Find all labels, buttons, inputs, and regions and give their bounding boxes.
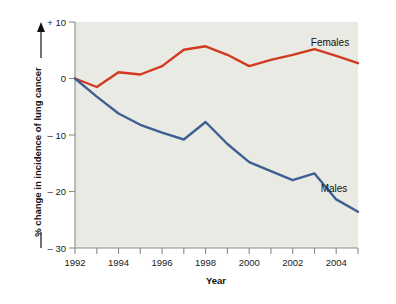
x-tick-label-2000: 2000 xyxy=(239,257,260,268)
x-tick-label-2004: 2004 xyxy=(326,257,347,268)
y-axis-title: % change in incidence of lung cancer xyxy=(32,67,43,237)
y-tick-label-minus10: – 10 xyxy=(48,130,67,141)
series-label-males: Males xyxy=(321,183,348,194)
y-tick-label-0: 0 xyxy=(61,73,66,84)
x-tick-label-1994: 1994 xyxy=(108,257,129,268)
plot-area-background xyxy=(75,22,358,248)
x-tick-label-1998: 1998 xyxy=(195,257,216,268)
y-tick-label-minus20: – 20 xyxy=(48,186,67,197)
x-tick-label-1996: 1996 xyxy=(152,257,173,268)
y-tick-marks xyxy=(69,22,75,248)
lung-cancer-incidence-figure: + 10 0 – 10 – 20 – 30 1992 1994 1996 199… xyxy=(0,0,396,304)
y-tick-label-plus10: + 10 xyxy=(47,17,66,28)
x-tick-label-2002: 2002 xyxy=(282,257,303,268)
up-arrow-icon xyxy=(37,22,45,58)
line-chart: + 10 0 – 10 – 20 – 30 1992 1994 1996 199… xyxy=(0,0,396,304)
x-tick-marks xyxy=(75,248,358,254)
x-tick-label-1992: 1992 xyxy=(64,257,85,268)
series-label-females: Females xyxy=(311,37,349,48)
y-tick-label-minus30: – 30 xyxy=(48,243,67,254)
x-axis-title: Year xyxy=(206,275,226,286)
